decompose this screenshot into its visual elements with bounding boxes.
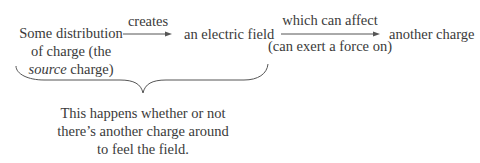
note-line-3: to feel the field. [40, 140, 246, 158]
brace-note: This happens whether or not there’s anot… [40, 104, 246, 158]
note-line-2: there’s another charge around [40, 122, 246, 140]
source-line-3-rest: charge) [67, 61, 114, 77]
source-line-2: of charge (the [16, 42, 126, 60]
source-italic: source [29, 61, 67, 77]
arrow-creates [123, 32, 172, 37]
arrow-label-force: (can exert a force on) [266, 37, 394, 55]
another-charge-label: another charge [389, 25, 474, 43]
note-line-1: This happens whether or not [40, 104, 246, 122]
electric-field-label: an electric field [184, 25, 274, 43]
source-charge-label: Some distribution of charge (the source … [16, 24, 126, 78]
source-line-3: source charge) [16, 60, 126, 78]
arrow-affects [281, 32, 380, 37]
source-line-1: Some distribution [16, 24, 126, 42]
arrow-label-affect: which can affect [270, 11, 390, 29]
arrow-label-creates: creates [122, 12, 174, 30]
